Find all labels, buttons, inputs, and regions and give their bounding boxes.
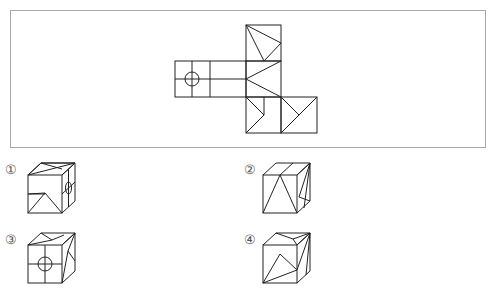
- option-2-label[interactable]: ②: [244, 163, 256, 177]
- option-4-cube[interactable]: [263, 233, 310, 283]
- option-2-cube[interactable]: [263, 163, 310, 213]
- option-3-cube[interactable]: [28, 233, 75, 283]
- option-4-label[interactable]: ④: [244, 233, 256, 247]
- cube-net: [175, 25, 317, 133]
- figure-canvas: [0, 0, 494, 295]
- option-1-label[interactable]: ①: [5, 163, 17, 177]
- option-3-label[interactable]: ③: [5, 233, 17, 247]
- option-1-cube[interactable]: [28, 163, 75, 213]
